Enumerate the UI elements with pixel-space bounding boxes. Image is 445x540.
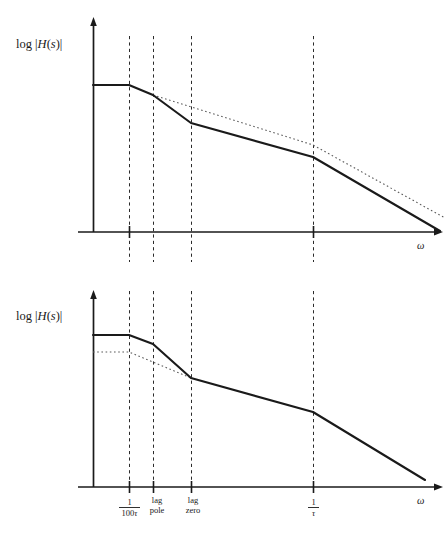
svg-text:1: 1	[311, 497, 315, 507]
top-plot: log |H(s)| ω	[16, 17, 445, 262]
bottom-plot-x-axis	[78, 484, 443, 491]
tick-label-one-over-100-tau: 1 100τ	[119, 497, 140, 518]
bottom-plot-tick-labels: 1 100τ lag pole lag zero 1 τ	[119, 495, 319, 518]
bottom-plot: log |H(s)| ω 1 100τ lag pole lag zero	[16, 290, 443, 518]
bottom-plot-y-axis-label: log |H(s)|	[16, 309, 62, 323]
svg-text:τ: τ	[312, 508, 316, 518]
svg-text:100τ: 100τ	[122, 508, 139, 518]
svg-text:lag: lag	[188, 495, 199, 505]
top-plot-solid-curve	[93, 85, 440, 231]
bottom-plot-x-axis-label: ω	[417, 495, 424, 506]
bottom-plot-solid-curve	[93, 335, 425, 480]
top-plot-y-axis-label: log |H(s)|	[16, 37, 62, 51]
tick-label-lag-pole: lag pole	[150, 495, 165, 515]
top-plot-y-axis	[90, 17, 97, 232]
svg-text:1: 1	[127, 497, 131, 507]
top-plot-dotted-reference-curve	[153, 95, 445, 218]
svg-text:zero: zero	[186, 505, 201, 515]
tick-label-one-over-tau: 1 τ	[308, 497, 319, 518]
bottom-plot-gridlines	[130, 291, 314, 493]
svg-text:pole: pole	[150, 505, 165, 515]
svg-text:lag: lag	[152, 495, 163, 505]
bode-magnitude-figure: log |H(s)| ω	[0, 0, 445, 540]
bottom-plot-y-axis	[90, 290, 97, 487]
tick-label-lag-zero: lag zero	[186, 495, 201, 515]
top-plot-x-axis-label: ω	[417, 240, 424, 251]
top-plot-x-axis	[78, 229, 443, 236]
